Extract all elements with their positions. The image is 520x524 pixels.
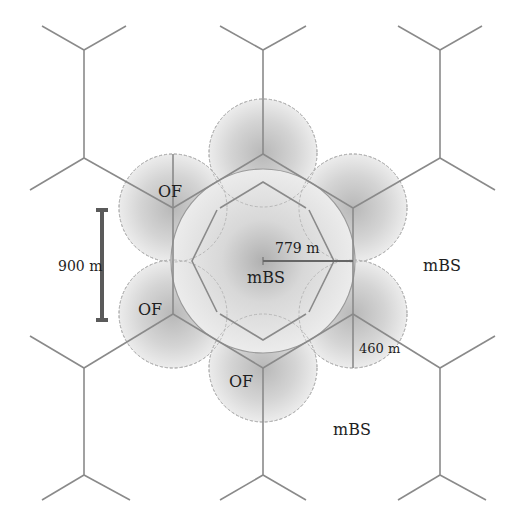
small-radius-label: 460 m (359, 341, 400, 356)
of-bottom-label: OF (229, 372, 253, 391)
center-mbs-label: mBS (247, 268, 285, 287)
radius-label: 779 m (275, 240, 319, 256)
hex-cell-diagram: 900 m 779 m mBS mBS mBS OF OF OF 460 m (0, 0, 520, 524)
of-upper-left-label: OF (158, 182, 182, 201)
scale-label: 900 m (58, 258, 102, 274)
bottom-mbs-label: mBS (333, 420, 371, 439)
of-left-label: OF (138, 300, 162, 319)
right-mbs-label: mBS (423, 256, 461, 275)
